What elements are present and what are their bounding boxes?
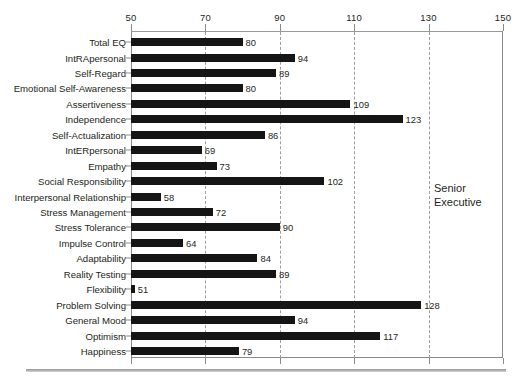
bar-value-label: 128	[421, 299, 440, 310]
eq-bar-chart: 507090110130150 Total EQ80IntRApersonal9…	[0, 0, 532, 382]
bar-value-label: 64	[183, 237, 196, 248]
category-label: General Mood	[65, 315, 126, 326]
x-tick-label: 110	[346, 12, 362, 23]
category-label: Impulse Control	[59, 237, 126, 248]
x-tick-label: 150	[495, 12, 511, 23]
category-label: Problem Solving	[56, 299, 126, 310]
category-label: Interpersonal Relationship	[15, 191, 126, 202]
bar	[131, 162, 217, 170]
bar	[131, 54, 295, 62]
category-label: Stress Tolerance	[55, 222, 126, 233]
x-tick-mark	[280, 24, 281, 31]
bar-value-label: 72	[213, 207, 226, 218]
x-tick-mark	[354, 24, 355, 31]
bar-value-label: 58	[161, 191, 174, 202]
bar-value-label: 69	[202, 145, 215, 156]
category-label: IntRApersonal	[65, 52, 126, 63]
bar-value-label: 102	[324, 176, 343, 187]
x-tick-label: 90	[274, 12, 285, 23]
category-label: Self-Regard	[75, 67, 126, 78]
bar-value-label: 80	[243, 83, 256, 94]
bar-value-label: 89	[276, 268, 289, 279]
bar	[131, 100, 350, 108]
bar	[131, 254, 257, 262]
x-tick-label: 70	[200, 12, 211, 23]
bar-value-label: 90	[280, 222, 293, 233]
x-tick-label: 130	[420, 12, 436, 23]
bar-value-label: 51	[135, 284, 148, 295]
bar	[131, 208, 213, 216]
x-tick-label: 50	[126, 12, 137, 23]
bar-value-label: 89	[276, 67, 289, 78]
bar-value-label: 94	[295, 52, 308, 63]
bar	[131, 223, 280, 231]
bar	[131, 347, 239, 355]
bar	[131, 131, 265, 139]
category-label: Stress Management	[40, 207, 126, 218]
bar	[131, 301, 421, 309]
bar	[131, 270, 276, 278]
x-tick-mark	[205, 24, 206, 31]
category-label: Adaptability	[76, 253, 126, 264]
x-tick-mark	[503, 24, 504, 31]
bar-value-label: 94	[295, 315, 308, 326]
category-label: Total EQ	[89, 37, 126, 48]
bottom-divider	[26, 369, 506, 372]
bar-value-label: 123	[403, 114, 422, 125]
bar-row: Happiness79	[0, 343, 532, 360]
category-label: Empathy	[88, 160, 126, 171]
bar-value-label: 84	[257, 253, 270, 264]
senior-executive-annotation: Senior Executive	[434, 182, 482, 209]
bar-value-label: 79	[239, 346, 252, 357]
category-label: Optimism	[85, 330, 126, 341]
bar	[131, 177, 324, 185]
bar-value-label: 109	[350, 98, 369, 109]
bar	[131, 239, 183, 247]
bar	[131, 38, 243, 46]
category-label: Assertiveness	[66, 98, 126, 109]
bar	[131, 115, 403, 123]
bar	[131, 193, 161, 201]
bar	[131, 332, 380, 340]
x-tick-mark	[429, 24, 430, 31]
bar-value-label: 86	[265, 129, 278, 140]
category-label: Independence	[65, 114, 126, 125]
chart-page: 507090110130150 Total EQ80IntRApersonal9…	[0, 0, 532, 382]
category-label: Flexibility	[87, 284, 126, 295]
category-label: Happiness	[81, 346, 126, 357]
category-label: Self-Actualization	[52, 129, 126, 140]
category-label: IntERpersonal	[65, 145, 126, 156]
bar	[131, 146, 202, 154]
x-tick-mark	[131, 24, 132, 31]
bar-value-label: 117	[380, 330, 398, 341]
bar-value-label: 73	[217, 160, 230, 171]
category-label: Emotional Self-Awareness	[14, 83, 126, 94]
bar-value-label: 80	[243, 37, 256, 48]
category-label: Reality Testing	[64, 268, 126, 279]
bar	[131, 316, 295, 324]
bar	[131, 69, 276, 77]
bar	[131, 84, 243, 92]
category-label: Social Responsibility	[38, 176, 126, 187]
